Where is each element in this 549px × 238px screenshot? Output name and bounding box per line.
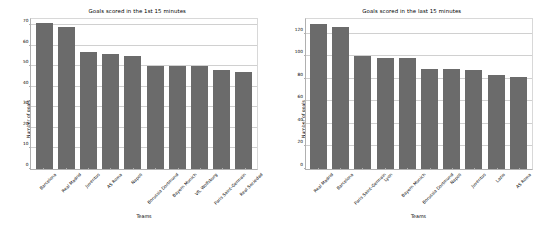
y-tick-label: 120 xyxy=(295,26,303,31)
y-tick-label: 30 xyxy=(23,100,28,105)
x-axis-label: Teams xyxy=(30,214,258,219)
y-tick-label: 100 xyxy=(295,49,303,54)
x-tick-mark xyxy=(155,168,156,170)
bar xyxy=(235,72,252,169)
bar xyxy=(80,52,97,169)
y-tick-label: 60 xyxy=(23,38,28,43)
plot-area: 010203040506070 xyxy=(30,18,258,170)
x-tick-mark xyxy=(318,168,319,170)
x-tick-mark xyxy=(88,168,89,170)
x-tick-slot: Barcelona xyxy=(332,170,349,214)
x-tick-slot: Borussia Dortmund xyxy=(147,170,164,214)
y-tick-label: 10 xyxy=(23,141,28,146)
x-axis-label: Teams xyxy=(305,214,533,219)
x-tick-label: Napoli xyxy=(449,172,462,185)
x-tick-slot: Real Madrid xyxy=(309,170,326,214)
x-axis-tick-labels: Real MadridBarcelonaParis Saint-GermainL… xyxy=(305,170,533,214)
y-tick-label: 0 xyxy=(26,162,29,167)
x-tick-mark xyxy=(497,168,498,170)
x-tick-slot: Paris Saint-Germain xyxy=(214,170,231,214)
bar xyxy=(332,27,349,169)
y-tick-label: 70 xyxy=(23,18,28,23)
bar xyxy=(377,58,394,169)
y-tick-label: 50 xyxy=(23,59,28,64)
x-tick-mark xyxy=(200,168,201,170)
x-tick-slot: Real Sociedad xyxy=(236,170,253,214)
x-tick-mark xyxy=(452,168,453,170)
x-tick-slot: Real Madrid xyxy=(57,170,74,214)
y-tick-label: 40 xyxy=(23,79,28,84)
chart-title: Goals scored in the 1st 15 minutes xyxy=(0,8,275,14)
x-tick-label: Juventus xyxy=(84,172,101,189)
bar xyxy=(399,58,416,169)
x-tick-label: Barcelona xyxy=(336,172,355,191)
x-tick-label: Lazio xyxy=(495,172,506,183)
bar xyxy=(58,27,75,169)
x-axis-tick-labels: BarcelonaReal MadridJuventusAS RomaNapol… xyxy=(30,170,258,214)
x-tick-slot: Lyon xyxy=(376,170,393,214)
x-tick-label: AS Roma xyxy=(106,172,123,189)
y-tick-label: 40 xyxy=(298,116,303,121)
x-tick-mark xyxy=(133,168,134,170)
y-tick-label: 0 xyxy=(300,162,303,167)
x-tick-slot: Bayern Munich xyxy=(399,170,416,214)
chart-panel-first-15: Goals scored in the 1st 15 minutes Numbe… xyxy=(0,0,275,238)
x-tick-mark xyxy=(66,168,67,170)
x-tick-slot: Lazio xyxy=(488,170,505,214)
x-tick-mark xyxy=(519,168,520,170)
bar xyxy=(421,69,438,169)
x-tick-mark xyxy=(474,168,475,170)
x-tick-slot: Napoli xyxy=(124,170,141,214)
x-tick-mark xyxy=(110,168,111,170)
x-tick-slot: AS Roma xyxy=(511,170,528,214)
x-tick-slot: Paris Saint-Germain xyxy=(354,170,371,214)
x-tick-mark xyxy=(340,168,341,170)
bar xyxy=(310,24,327,169)
x-tick-mark xyxy=(385,168,386,170)
bar xyxy=(213,70,230,169)
x-tick-slot: VfL Wolfsburg xyxy=(191,170,208,214)
bar xyxy=(102,54,119,169)
chart-title: Goals scored in the last 15 minutes xyxy=(275,8,549,14)
x-tick-label: Barcelona xyxy=(39,172,58,191)
bar xyxy=(465,70,482,169)
bar xyxy=(510,77,527,169)
x-tick-slot: Bayern Munich xyxy=(169,170,186,214)
x-tick-slot: Borussia Dortmund xyxy=(421,170,438,214)
x-tick-slot: Barcelona xyxy=(35,170,52,214)
x-tick-label: Juventus xyxy=(471,172,488,189)
bar xyxy=(124,56,141,169)
x-tick-mark xyxy=(222,168,223,170)
x-tick-label: Napoli xyxy=(130,172,143,185)
x-tick-slot: AS Roma xyxy=(102,170,119,214)
bar xyxy=(354,56,371,169)
x-tick-mark xyxy=(178,168,179,170)
x-tick-mark xyxy=(430,168,431,170)
bar xyxy=(169,66,186,169)
x-tick-label: AS Roma xyxy=(515,172,532,189)
x-tick-mark xyxy=(407,168,408,170)
y-tick-label: 60 xyxy=(298,94,303,99)
x-tick-slot: Juventus xyxy=(79,170,96,214)
bar xyxy=(147,66,164,169)
y-tick-label: 20 xyxy=(298,139,303,144)
bar-series xyxy=(306,19,532,169)
x-tick-slot: Napoli xyxy=(444,170,461,214)
bar xyxy=(191,66,208,169)
bar xyxy=(443,69,460,169)
figure-row: Goals scored in the 1st 15 minutes Numbe… xyxy=(0,0,549,238)
plot-area: 020406080100120 xyxy=(305,18,533,170)
x-tick-mark xyxy=(362,168,363,170)
y-tick-label: 20 xyxy=(23,120,28,125)
x-tick-label: Lyon xyxy=(383,172,394,183)
x-tick-mark xyxy=(245,168,246,170)
bar xyxy=(36,23,53,169)
x-tick-slot: Juventus xyxy=(466,170,483,214)
chart-panel-last-15: Goals scored in the last 15 minutes Numb… xyxy=(275,0,549,238)
x-tick-mark xyxy=(43,168,44,170)
bar-series xyxy=(31,19,257,169)
x-tick-label: Real Sociedad xyxy=(238,172,263,197)
y-tick-label: 80 xyxy=(298,71,303,76)
bar xyxy=(488,75,505,169)
